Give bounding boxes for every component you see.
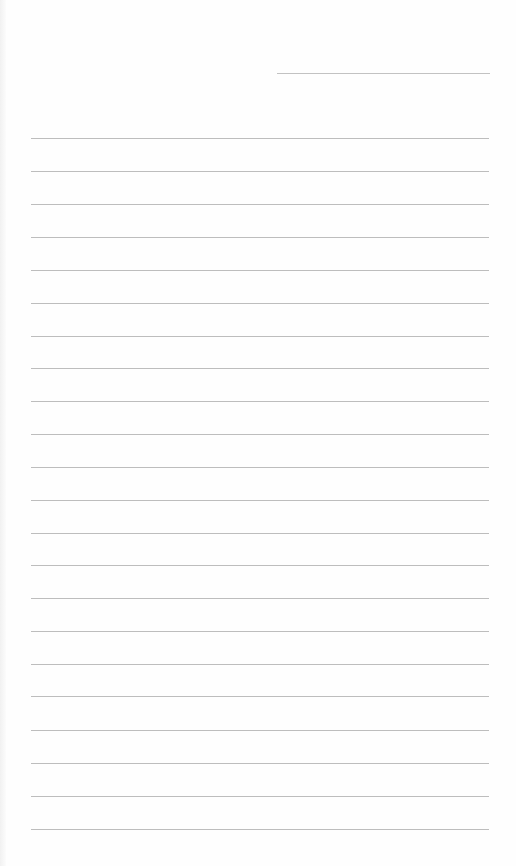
ruled-line — [31, 533, 489, 534]
ruled-line — [31, 434, 489, 435]
ruled-line — [31, 565, 489, 566]
ruled-line — [31, 598, 489, 599]
ruled-line — [31, 500, 489, 501]
ruled-line — [31, 829, 489, 830]
ruled-line — [31, 237, 489, 238]
ruled-line — [31, 730, 489, 731]
ruled-line — [31, 696, 489, 697]
page-edge-shadow — [0, 0, 6, 866]
header-blank-line — [277, 73, 490, 74]
ruled-line — [31, 171, 489, 172]
ruled-line — [31, 664, 489, 665]
ruled-line — [31, 204, 489, 205]
ruled-line — [31, 763, 489, 764]
ruled-line — [31, 303, 489, 304]
ruled-line — [31, 467, 489, 468]
ruled-line — [31, 336, 489, 337]
lined-paper-page — [0, 0, 516, 866]
ruled-line — [31, 138, 489, 139]
ruled-line — [31, 796, 489, 797]
ruled-line — [31, 631, 489, 632]
ruled-line — [31, 368, 489, 369]
ruled-line — [31, 270, 489, 271]
ruled-line — [31, 401, 489, 402]
